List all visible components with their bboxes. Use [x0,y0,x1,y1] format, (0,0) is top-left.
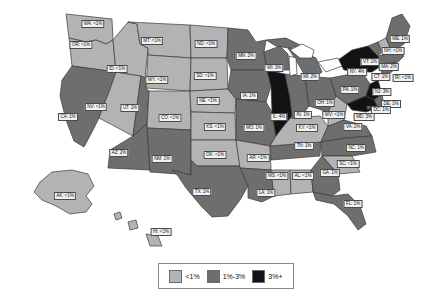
us-choropleth-map: WA: <1%OR: <1%ID: <1%MT: <1%WY: <1%ND: <… [0,0,427,300]
state-label-az: AZ: 2% [109,149,128,157]
state-label-tx: TX: 1% [192,188,211,196]
legend-entry-high: 3%+ [252,270,282,283]
state-label-nv: NV: <1% [85,103,107,111]
state-label-va: VA: 2% [343,123,362,131]
legend-swatch-high [252,270,265,283]
state-label-wi: WI: 1% [264,64,283,72]
state-label-id: ID: <1% [107,65,128,73]
state-label-nd: ND: <1% [195,40,218,48]
state-label-mn: MN: 2% [236,52,257,60]
state-label-la: LA: 1% [256,189,275,197]
state-label-ri: RI: <1% [393,74,414,82]
state-label-ak: AK: <1% [54,192,76,200]
state-label-mi: MI: 2% [301,73,320,81]
state-label-ne: NE: <1% [197,97,220,105]
state-label-ia: IA: 1% [240,92,258,100]
state-mn [227,28,267,70]
legend-entry-mid: 1%-3% [207,270,246,283]
state-co [147,91,191,130]
state-label-ky: KY: <1% [296,124,318,132]
map-legend: <1%1%-3%3%+ [158,263,294,289]
state-label-wv: WV: <1% [322,111,345,119]
state-mo [236,99,276,146]
state-label-tn: TN: 1% [294,142,314,150]
state-label-fl: FL: 1% [344,200,363,208]
state-label-vt: VT: 1% [361,58,380,66]
legend-swatch-low [169,270,182,283]
state-label-wy: WY: <1% [145,76,168,84]
state-label-hi: HI: <1% [151,228,172,236]
state-label-ca: CA: 1% [58,113,78,121]
lake-erie-ontario-water [318,58,342,72]
state-wy [146,55,191,91]
state-label-ar: AR: <1% [247,154,270,162]
legend-entry-low: <1% [169,270,199,283]
state-label-co: CO: <1% [158,114,181,122]
state-label-or: OR: <1% [69,41,92,49]
state-nm [147,128,191,175]
state-label-pa: PA: 1% [340,86,359,94]
state-label-ks: KS: <1% [204,123,226,131]
state-label-ok: OK: <1% [204,151,227,159]
state-label-sc: SC: <1% [337,160,360,168]
state-label-ms: MS: <1% [265,172,288,180]
legend-swatch-mid [207,270,220,283]
state-label-in: IN: 1% [294,111,312,119]
state-label-nj: NJ: 3% [372,88,391,96]
legend-label-low: <1% [185,273,199,280]
state-label-ma: MA: 2% [379,63,399,71]
state-label-nh: NH: <1% [382,47,405,55]
state-label-il: IL: 4% [270,113,287,121]
state-fl [313,192,366,230]
state-label-me: ME: 1% [390,35,410,43]
legend-label-high: 3%+ [268,273,282,280]
state-dc [367,106,370,109]
lake-michigan-water [289,56,297,76]
state-label-ga: GA: 1% [320,169,340,177]
state-label-al: AL: <1% [292,172,314,180]
state-label-ut: UT: 1% [120,104,139,112]
state-label-nm: NM: 1% [152,155,173,163]
state-label-nc: NC: 1% [346,144,366,152]
state-label-md: MD: 3% [354,113,375,121]
legend-label-mid: 1%-3% [223,273,246,280]
state-label-ct: CT: 1% [371,73,390,81]
state-label-oh: OH: 1% [315,99,335,107]
state-label-mo: MO: 1% [244,124,265,132]
state-label-ny: NY: 4% [347,68,367,76]
state-label-wa: WA: <1% [81,20,104,28]
state-label-dc: DC: 1% [371,106,391,114]
state-label-mt: MT: <1% [141,37,163,45]
state-label-sd: SD: <1% [194,72,217,80]
